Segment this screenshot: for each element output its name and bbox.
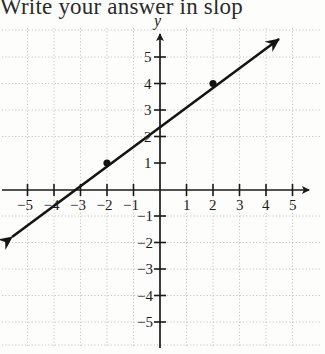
y-axis-name: y: [154, 12, 161, 30]
y-tick-label--2: −2: [137, 236, 153, 251]
x-tick-label-5: 5: [289, 198, 297, 213]
x-tick-label--2: −2: [97, 198, 113, 213]
y-tick-label--4: −4: [137, 289, 153, 304]
y-tick-label-1: 1: [144, 156, 152, 171]
y-tick-label-2: 2: [144, 130, 152, 145]
x-tick-label--4: −4: [44, 198, 60, 213]
y-tick-label--5: −5: [137, 315, 153, 330]
y-tick-label--1: −1: [137, 209, 153, 224]
x-tick-label-3: 3: [236, 198, 244, 213]
grid-horizontal: [2, 30, 322, 345]
y-tick-label-3: 3: [144, 103, 152, 118]
page-title: Write your answer in slop: [0, 0, 325, 24]
graph-svg: [0, 22, 325, 354]
x-tick-label--5: −5: [17, 198, 33, 213]
coordinate-plane: y −5 −4 −3 −2 −1 1 2 3 4 5 5 4 3 2 1 −1 …: [0, 22, 325, 354]
x-tick-label-4: 4: [262, 198, 270, 213]
x-tick-label--3: −3: [70, 198, 86, 213]
plotted-point: [103, 159, 110, 166]
y-tick-label--3: −3: [137, 262, 153, 277]
y-tick-label-4: 4: [144, 77, 152, 92]
x-tick-label-2: 2: [209, 198, 217, 213]
y-tick-label-5: 5: [144, 50, 152, 65]
x-tick-label-1: 1: [183, 198, 191, 213]
worksheet-screenshot: Write your answer in slop: [0, 0, 325, 354]
plotted-point: [209, 80, 216, 87]
